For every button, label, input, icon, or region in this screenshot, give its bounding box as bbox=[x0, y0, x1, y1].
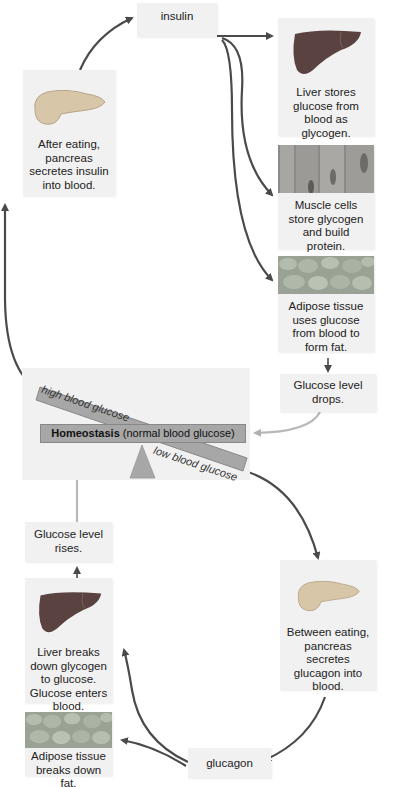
homeostasis-bar: Homeostasis (normal blood glucose) bbox=[40, 424, 246, 443]
homeostasis-bold: Homeostasis bbox=[51, 427, 119, 439]
liver-breaks-text: Liver breaks down glycogen to glucose. G… bbox=[25, 646, 112, 714]
pancreas-glucagon-text: Between eating, pancreas secretes glucag… bbox=[280, 626, 376, 694]
fulcrum-triangle bbox=[130, 445, 155, 478]
liver-icon bbox=[35, 586, 103, 638]
adipose-tissue-icon bbox=[25, 712, 112, 748]
glucose-rises-text: Glucose level rises. bbox=[25, 528, 112, 555]
pancreas-glucagon-box: Between eating, pancreas secretes glucag… bbox=[280, 560, 376, 690]
homeostasis-normal: (normal blood glucose) bbox=[120, 427, 235, 439]
liver-breaks-box: Liver breaks down glycogen to glucose. G… bbox=[25, 578, 112, 703]
adipose-breaks-text: Adipose tissue breaks down fat. bbox=[25, 750, 112, 787]
adipose-breaks-box: Adipose tissue breaks down fat. bbox=[25, 712, 112, 776]
glucagon-text: glucagon bbox=[206, 757, 253, 769]
pancreas-icon bbox=[290, 574, 366, 614]
glucose-rises-box: Glucose level rises. bbox=[25, 522, 112, 562]
glucagon-label: glucagon bbox=[188, 748, 271, 778]
